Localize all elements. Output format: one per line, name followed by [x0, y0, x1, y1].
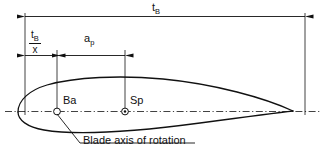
caption-text: Blade axis of rotation — [83, 135, 186, 146]
ba-circle-marker — [54, 108, 61, 115]
fraction-numerator: tB — [29, 30, 41, 44]
leading-fraction-label: tB x — [29, 30, 41, 55]
ba-point-label: Ba — [63, 95, 76, 106]
offset-dimension-label: ap — [84, 33, 94, 47]
figure-canvas: tB tB x ap Ba Sp Blade axis of rotation — [0, 0, 326, 159]
airfoil-outline — [18, 77, 293, 133]
sp-center-dot-icon — [124, 110, 126, 112]
chord-dimension-label: tB — [152, 2, 160, 16]
sp-point-label: Sp — [130, 95, 143, 106]
fraction-denominator: x — [29, 44, 41, 55]
